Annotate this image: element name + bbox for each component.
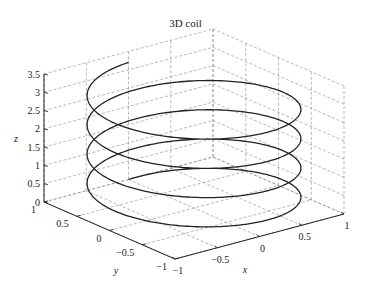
- z-tick-label: 2: [35, 123, 40, 134]
- y-tick-label: 0.5: [56, 218, 69, 229]
- x-tick-label: −1: [173, 265, 184, 276]
- z-tick-label: 1: [35, 160, 40, 171]
- z-tick-label: 3.5: [28, 69, 41, 80]
- floor-grid-line: [142, 200, 311, 245]
- z-tick: [44, 111, 48, 112]
- side-wall-grid-line: [213, 157, 344, 214]
- y-tick-label: 0: [97, 233, 102, 244]
- side-wall-grid-line: [213, 29, 344, 86]
- y-tick: [77, 215, 81, 216]
- z-tick-label: 2.5: [28, 105, 41, 116]
- x-tick-label: 1: [345, 220, 350, 231]
- z-tick-label: 3: [35, 87, 40, 98]
- x-tick-label: 0: [260, 243, 265, 254]
- y-tick-label: −1: [156, 261, 167, 272]
- z-tick: [44, 129, 48, 130]
- side-wall-grid-line: [213, 84, 344, 141]
- y-tick: [110, 230, 114, 231]
- z-tick: [44, 74, 48, 75]
- coil-3d-plot: 00.511.522.533.5−1−0.500.51−1−0.500.51zy…: [0, 0, 371, 292]
- y-tick-label: −0.5: [116, 247, 134, 258]
- x-tick-label: 0.5: [299, 231, 312, 242]
- axis-labels: 00.511.522.533.5−1−0.500.51−1−0.500.51zy…: [13, 69, 349, 277]
- y-axis-label: y: [113, 265, 119, 276]
- z-tick: [44, 147, 48, 148]
- z-tick: [44, 165, 48, 166]
- y-tick: [175, 258, 179, 259]
- z-tick: [44, 184, 48, 185]
- y-tick-label: 1: [31, 204, 36, 215]
- z-tick: [44, 92, 48, 93]
- z-tick-label: 1.5: [28, 142, 41, 153]
- floor-grid-line: [86, 191, 217, 248]
- z-axis-label: z: [13, 133, 18, 144]
- y-tick: [142, 244, 146, 245]
- x-axis-label: x: [242, 264, 248, 275]
- z-tick-label: 0.5: [28, 178, 41, 189]
- y-tick: [44, 201, 48, 202]
- side-wall-grid-line: [213, 47, 344, 104]
- x-tick-label: −0.5: [211, 254, 229, 265]
